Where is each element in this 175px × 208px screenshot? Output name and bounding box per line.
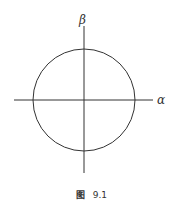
caption-prefix: 图 <box>76 190 85 200</box>
alpha-axis-label: α <box>157 93 165 107</box>
figure-caption: 图9.1 <box>70 178 116 201</box>
circle-diagram: β α <box>0 0 175 208</box>
beta-axis-label: β <box>78 13 86 27</box>
caption-number: 9.1 <box>93 190 107 200</box>
